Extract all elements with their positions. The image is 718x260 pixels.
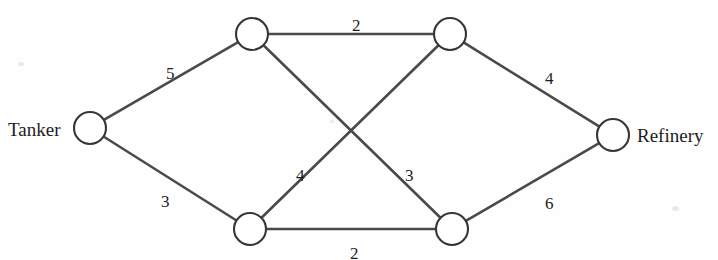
edge-top-left-bottom-right	[263, 44, 442, 218]
edge-weight-top-right-refinery: 4	[545, 70, 554, 87]
refinery-label: Refinery	[637, 126, 703, 145]
tanker-label: Tanker	[8, 120, 60, 139]
edge-weight-bottom-right-refinery: 6	[545, 195, 554, 212]
node-top-left	[236, 18, 268, 50]
edge-weight-tanker-bottom-left: 3	[161, 193, 170, 210]
edge-layer	[103, 34, 601, 229]
network-graph-canvas	[0, 0, 718, 260]
network-diagram: 53234246 Tanker Refinery	[0, 0, 718, 260]
edge-weight-top-left-bottom-right: 3	[405, 167, 414, 184]
edge-weight-top-left-top-right: 2	[352, 17, 361, 34]
edge-bottom-left-top-right	[261, 44, 440, 218]
edge-tanker-bottom-left	[103, 136, 238, 221]
node-bottom-right	[436, 213, 468, 245]
node-refinery	[597, 119, 629, 151]
node-bottom-left	[234, 213, 266, 245]
edge-weight-bottom-left-top-right: 4	[296, 167, 305, 184]
edge-weight-bottom-left-bottom-right: 2	[350, 245, 359, 260]
edge-top-right-refinery	[463, 42, 600, 127]
node-tanker	[74, 112, 106, 144]
node-top-right	[434, 18, 466, 50]
edge-bottom-right-refinery	[465, 143, 600, 222]
edge-weight-tanker-top-left: 5	[166, 65, 175, 82]
